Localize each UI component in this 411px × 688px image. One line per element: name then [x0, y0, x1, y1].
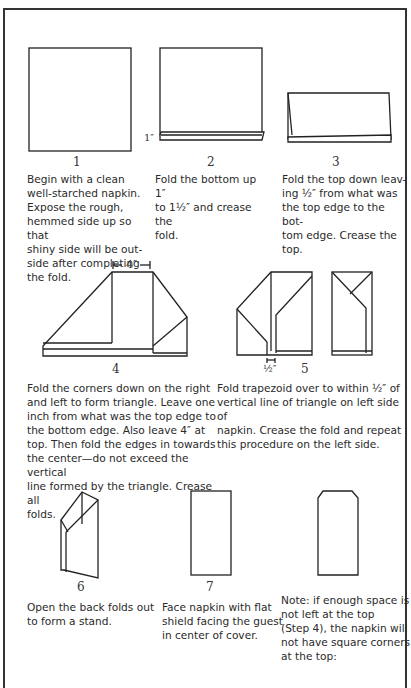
- step-7-number: 7: [206, 580, 214, 594]
- step-2-diagram: [158, 47, 268, 147]
- step-5-number: 5: [301, 362, 309, 376]
- step-6-number: 6: [77, 580, 85, 594]
- step-5-diagram-side: [330, 270, 376, 362]
- step-3-diagram: [286, 91, 394, 147]
- note-text: Note: if enough space is not left at the…: [281, 593, 411, 663]
- step-1-diagram: [28, 47, 134, 153]
- step-5-dimension-label: ½″: [263, 363, 276, 374]
- step-2-text: Fold the bottom up 1″ to 1½″ and crease …: [155, 172, 270, 242]
- step-1-number: 1: [73, 155, 81, 169]
- step-6-diagram: [56, 490, 104, 582]
- step-6-text: Open the back folds out to form a stand.: [27, 600, 157, 628]
- step-4-diagram: [40, 259, 190, 359]
- step-7-diagram: [190, 490, 234, 578]
- step-2-number: 2: [207, 155, 215, 169]
- step-4-number: 4: [112, 362, 120, 376]
- step-3-text: Fold the top down leav- ing ½″ from what…: [282, 172, 407, 256]
- note-diagram: [317, 490, 361, 578]
- step-5-text: Fold trapezoid over to within ½″ of vert…: [217, 381, 407, 451]
- step-2-dimension-label: 1″: [144, 132, 154, 143]
- step-5-diagram-front: [235, 270, 315, 362]
- step-7-text: Face napkin with flat shield facing the …: [162, 600, 287, 642]
- step-3-number: 3: [332, 155, 340, 169]
